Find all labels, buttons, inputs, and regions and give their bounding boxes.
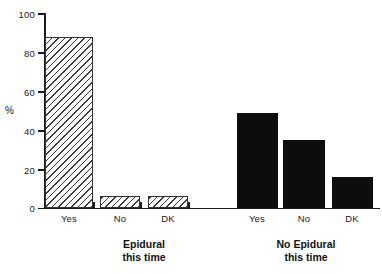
bar-no-epidural-no: [283, 140, 325, 208]
y-tick-20: 20: [38, 169, 44, 171]
y-tick-80: 80: [38, 52, 44, 54]
y-tick-40: 40: [38, 130, 44, 132]
x-label-epidural-no: No: [114, 213, 127, 224]
group-label-no-epidural-line2: this time: [277, 251, 336, 264]
y-tick-100: 100: [38, 13, 44, 15]
y-tick-label-0: 0: [30, 203, 35, 214]
x-label-no-epidural-dk: DK: [345, 213, 359, 224]
group-label-no-epidural: No Epidural this time: [277, 238, 336, 264]
bar-chart-figure: 100 80 60 40 20 0 % Yes No DK Yes No DK …: [0, 0, 382, 274]
x-tick-3: [140, 202, 142, 208]
x-label-epidural-yes: Yes: [61, 213, 77, 224]
y-tick-label-40: 40: [24, 125, 35, 136]
x-tick-4: [188, 202, 190, 208]
group-label-epidural-line1: Epidural: [123, 238, 165, 250]
bar-no-epidural-dk: [332, 177, 373, 208]
y-tick-60: 60: [38, 91, 44, 93]
group-label-epidural: Epidural this time: [122, 238, 165, 264]
y-tick-label-100: 100: [19, 8, 35, 19]
bar-epidural-no: [100, 196, 140, 208]
group-label-epidural-line2: this time: [122, 251, 165, 264]
bar-epidural-yes: [45, 37, 93, 208]
y-tick-label-20: 20: [24, 164, 35, 175]
x-label-no-epidural-yes: Yes: [249, 213, 265, 224]
group-label-no-epidural-line1: No Epidural: [277, 238, 336, 250]
bar-epidural-dk: [148, 196, 188, 208]
y-tick-label-80: 80: [24, 47, 35, 58]
x-label-no-epidural-no: No: [298, 213, 311, 224]
x-label-epidural-dk: DK: [161, 213, 175, 224]
y-tick-label-60: 60: [24, 86, 35, 97]
bar-no-epidural-yes: [237, 113, 278, 208]
y-axis-title: %: [5, 105, 14, 116]
x-tick-2: [93, 202, 95, 208]
